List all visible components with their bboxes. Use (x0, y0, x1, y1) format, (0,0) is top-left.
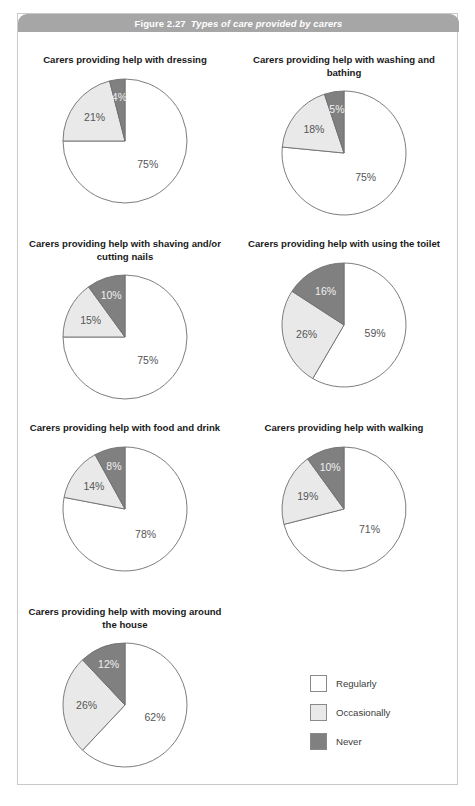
figure-number: Figure 2.27 (134, 18, 185, 29)
pie-chart: 78%14%8% (18, 439, 232, 579)
chart-title: Carers providing help with washing and b… (237, 54, 451, 79)
slice-value-label: 78% (135, 527, 156, 539)
slice-value-label: 75% (137, 157, 158, 169)
slice-value-label: 8% (106, 459, 121, 471)
slice-value-label: 5% (329, 103, 344, 115)
chart-title: Carers providing help with walking (237, 422, 451, 435)
slice-value-label: 26% (76, 699, 97, 711)
pie-chart: 62%26%12% (18, 635, 232, 775)
slice-value-label: 15% (80, 314, 101, 326)
slice-value-label: 75% (355, 171, 376, 183)
legend-label: Regularly (336, 678, 377, 689)
slice-value-label: 18% (303, 123, 324, 135)
pie-chart: 59%26%16% (237, 255, 451, 395)
legend-swatch-icon (310, 675, 327, 692)
chart-title: Carers providing help with food and drin… (18, 422, 232, 435)
slice-value-label: 62% (144, 711, 165, 723)
chart-title: Carers providing help with shaving and/o… (18, 238, 232, 263)
legend-swatch-icon (310, 733, 327, 750)
chart-cell: Carers providing help with dressing75%21… (18, 54, 232, 211)
pie-chart: 71%19%10% (237, 439, 451, 579)
legend-label: Never (336, 736, 362, 747)
chart-cell: Carers providing help with walking71%19%… (237, 422, 451, 579)
legend-swatch-icon (310, 704, 327, 721)
figure-header-bar: Figure 2.27 Types of care provided by ca… (18, 14, 459, 32)
slice-value-label: 71% (359, 522, 380, 534)
legend-item[interactable]: Regularly (310, 669, 440, 698)
figure-title: Types of care provided by carers (191, 18, 343, 29)
slice-value-label: 12% (98, 658, 119, 670)
chart-cell: Carers providing help with moving around… (18, 606, 232, 775)
slice-value-label: 75% (137, 354, 158, 366)
legend-item[interactable]: Never (310, 727, 440, 756)
chart-cell: Carers providing help with food and drin… (18, 422, 232, 579)
chart-cell: Carers providing help with washing and b… (237, 54, 451, 223)
slice-value-label: 10% (101, 289, 122, 301)
slice-value-label: 16% (315, 285, 336, 297)
legend-item[interactable]: Occasionally (310, 698, 440, 727)
chart-title: Carers providing help with moving around… (18, 606, 232, 631)
slice-value-label: 19% (297, 490, 318, 502)
chart-cell: Carers providing help with shaving and/o… (18, 238, 232, 407)
pie-chart: 75%18%5% (237, 83, 451, 223)
slice-value-label: 59% (365, 327, 386, 339)
slice-value-label: 10% (320, 460, 341, 472)
legend-label: Occasionally (336, 707, 390, 718)
chart-cell: Carers providing help with using the toi… (237, 238, 451, 395)
pie-chart: 75%15%10% (18, 267, 232, 407)
figure-container: Figure 2.27 Types of care provided by ca… (17, 13, 458, 785)
slice-value-label: 26% (296, 327, 317, 339)
slice-value-label: 21% (84, 111, 105, 123)
legend: RegularlyOccasionallyNever (310, 669, 440, 756)
chart-title: Carers providing help with using the toi… (237, 238, 451, 251)
slice-value-label: 14% (83, 480, 104, 492)
chart-title: Carers providing help with dressing (18, 54, 232, 67)
pie-chart: 75%21%4% (18, 71, 232, 211)
slice-value-label: 4% (112, 90, 127, 102)
